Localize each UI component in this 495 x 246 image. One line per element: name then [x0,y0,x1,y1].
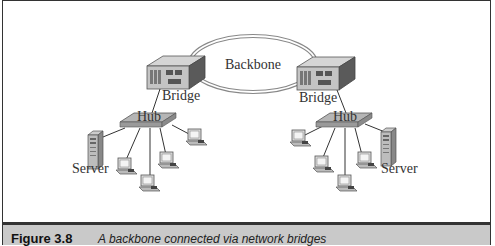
left-bridge-icon [147,56,205,89]
figure-caption: A backbone connected via network bridges [98,232,326,246]
left-workstation-icon [139,175,160,191]
right-hub-label: Hub [333,109,357,125]
left-server-label: Server [72,161,109,177]
left-hub-label: Hub [137,109,161,125]
right-bridge-label: Bridge [299,90,337,106]
backbone-label: Backbone [225,57,281,73]
right-workstation-icon [313,156,334,172]
left-bridge-label: Bridge [162,88,200,104]
left-workstation-icon [186,129,207,145]
left-workstation-icon [116,158,137,174]
right-workstation-icon [356,152,377,168]
right-server-label: Server [381,161,418,177]
figure-number: Figure 3.8 [11,231,72,246]
network-diagram [0,0,495,225]
right-workstation-icon [290,130,311,146]
right-workstation-icon [336,175,357,191]
left-workstation-icon [158,152,179,168]
caption-bar: Figure 3.8 A backbone connected via netw… [2,225,491,245]
right-bridge-icon [297,57,355,90]
